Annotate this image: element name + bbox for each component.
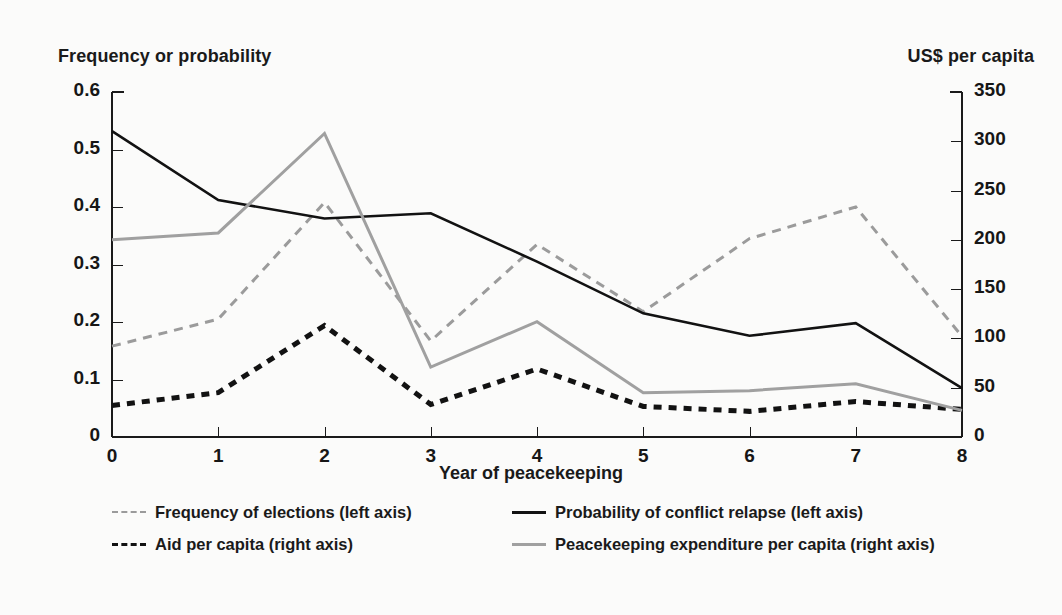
right-tick-label: 0	[974, 424, 1034, 446]
series-lines	[112, 131, 962, 411]
legend-item-aid-per-capita[interactable]: Aid per capita (right axis)	[112, 535, 512, 554]
left-tick-label: 0.4	[38, 194, 100, 216]
left-tick-label: 0.5	[38, 137, 100, 159]
dashed-dark-line-icon	[112, 543, 146, 546]
chart-legend: Frequency of elections (left axis) Proba…	[112, 496, 962, 560]
right-tick-label: 100	[974, 325, 1034, 347]
left-tick-label: 0.3	[38, 252, 100, 274]
right-tick-label: 50	[974, 375, 1034, 397]
legend-item-frequency-of-elections[interactable]: Frequency of elections (left axis)	[112, 503, 512, 522]
legend-item-peacekeeping-expenditure[interactable]: Peacekeeping expenditure per capita (rig…	[512, 535, 962, 554]
right-tick-label: 200	[974, 227, 1034, 249]
legend-item-probability-of-conflict-relapse[interactable]: Probability of conflict relapse (left ax…	[512, 503, 962, 522]
left-tick-label: 0	[38, 424, 100, 446]
right-tick-label: 150	[974, 276, 1034, 298]
x-axis-title: Year of peacekeeping	[0, 463, 1062, 484]
dashed-light-line-icon	[112, 511, 146, 513]
legend-label: Peacekeeping expenditure per capita (rig…	[555, 535, 935, 554]
legend-label: Aid per capita (right axis)	[155, 535, 353, 554]
tick-marks	[112, 142, 962, 438]
solid-dark-line-icon	[512, 511, 546, 514]
legend-label: Frequency of elections (left axis)	[155, 503, 412, 522]
right-tick-label: 250	[974, 178, 1034, 200]
right-tick-label: 300	[974, 128, 1034, 150]
left-tick-label: 0.6	[38, 79, 100, 101]
left-tick-label: 0.1	[38, 367, 100, 389]
chart-figure: Frequency or probability US$ per capita …	[0, 0, 1062, 615]
solid-gray-line-icon	[512, 543, 546, 546]
legend-label: Probability of conflict relapse (left ax…	[555, 503, 863, 522]
right-tick-label: 350	[974, 79, 1034, 101]
left-tick-label: 0.2	[38, 309, 100, 331]
